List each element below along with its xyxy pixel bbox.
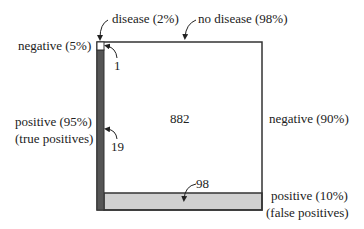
arrow-disease-icon — [100, 20, 108, 38]
column-label-no-disease: no disease (98%) — [198, 11, 288, 26]
row-label-left-negative: negative (5%) — [18, 38, 91, 53]
count-false-positives: 98 — [196, 176, 209, 191]
row-label-right-negative: negative (90%) — [269, 111, 349, 126]
count-true-negatives: 882 — [170, 111, 190, 126]
count-true-positives: 19 — [111, 139, 124, 154]
arrow-false-negative-icon — [107, 46, 117, 58]
row-label-right-positive-note: (false positives) — [266, 205, 349, 220]
row-label-right-positive: positive (10%) — [271, 188, 348, 203]
false-negatives-region — [97, 42, 104, 50]
count-false-negatives: 1 — [114, 58, 121, 73]
row-label-left-positive: positive (95%) — [15, 114, 92, 129]
column-label-disease: disease (2%) — [112, 11, 179, 26]
true-positives-region — [97, 50, 104, 210]
population-frame — [97, 42, 262, 210]
arrow-true-positive-icon — [107, 129, 117, 139]
arrow-no-disease-icon — [185, 20, 196, 37]
false-positives-region — [104, 193, 262, 210]
row-label-left-positive-note: (true positives) — [15, 131, 93, 146]
